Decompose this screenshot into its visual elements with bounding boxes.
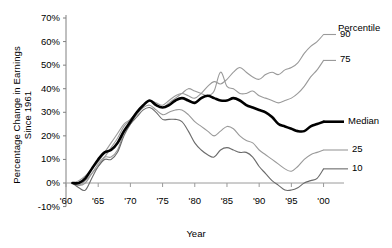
- x-tick-label: '90: [242, 195, 276, 206]
- x-axis-title: Year: [0, 228, 392, 239]
- x-tick-label: '65: [81, 195, 115, 206]
- x-tick-label: '75: [146, 195, 180, 206]
- series-label-p10: 10: [352, 162, 363, 173]
- y-tick-label: 0%: [20, 177, 60, 188]
- series-line-90: [72, 35, 323, 184]
- y-tick-label: 70%: [20, 12, 60, 23]
- series-line-75: [72, 60, 323, 185]
- y-tick-label: 30%: [20, 106, 60, 117]
- line-chart: Percentage Change in Earnings Since 1961…: [0, 0, 392, 248]
- y-tick-label: 50%: [20, 59, 60, 70]
- x-tick-label: '80: [178, 195, 212, 206]
- y-tick-label: 60%: [20, 36, 60, 47]
- x-tick-label: '70: [113, 195, 147, 206]
- y-tick-label: 40%: [20, 83, 60, 94]
- series-line-median: [72, 96, 323, 184]
- x-tick-label: '85: [210, 195, 244, 206]
- x-tick-label: '60: [49, 195, 83, 206]
- series-label-median: Median: [348, 115, 379, 126]
- series-label-p90: 90: [340, 28, 351, 39]
- series-label-p25: 25: [352, 143, 363, 154]
- x-tick-label: '95: [274, 195, 308, 206]
- series-label-p75: 75: [340, 53, 351, 64]
- x-tick-label: '00: [307, 195, 341, 206]
- y-tick-label: 20%: [20, 130, 60, 141]
- y-tick-label: 10%: [20, 153, 60, 164]
